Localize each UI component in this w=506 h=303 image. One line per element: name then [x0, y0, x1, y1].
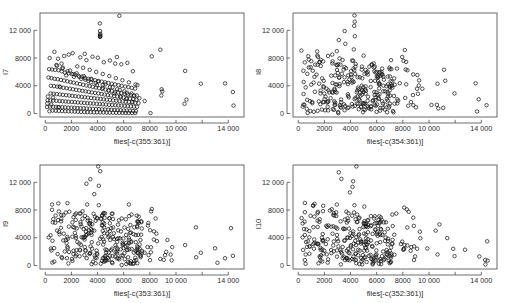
plot-frame — [293, 13, 497, 117]
x-axis: 0200040006000800010 00014 000flies[-c(35… — [296, 120, 492, 146]
data-point — [406, 104, 410, 108]
data-point — [140, 227, 144, 231]
data-point — [46, 95, 50, 99]
tick-label: 0 — [27, 261, 31, 270]
data-point — [118, 14, 122, 18]
tick-label: 8000 — [395, 124, 411, 133]
data-point — [194, 226, 198, 230]
tick-label: 6000 — [116, 276, 132, 285]
data-point — [353, 72, 357, 76]
data-point — [324, 242, 328, 246]
data-point — [317, 262, 321, 266]
data-point — [395, 67, 399, 71]
data-point — [231, 254, 235, 258]
data-point — [358, 227, 362, 231]
data-point — [302, 69, 306, 73]
data-point — [111, 217, 115, 221]
data-point — [353, 104, 357, 108]
data-point — [127, 81, 131, 85]
data-point — [97, 203, 101, 207]
tick-label: 10 000 — [165, 124, 187, 133]
data-point — [65, 256, 69, 260]
data-point — [152, 230, 156, 234]
data-point — [71, 221, 75, 225]
data-point — [312, 238, 316, 242]
data-point — [63, 250, 67, 254]
data-point — [53, 50, 57, 54]
data-point — [391, 213, 395, 217]
tick-label: 4000 — [343, 124, 359, 133]
data-point — [120, 84, 124, 88]
tick-label: 2000 — [316, 124, 332, 133]
data-point — [160, 94, 164, 98]
tick-label: 10 000 — [418, 276, 440, 285]
data-point — [363, 205, 367, 209]
data-point — [301, 248, 305, 252]
data-point — [348, 191, 352, 195]
data-point — [150, 55, 154, 59]
tick-label: 2000 — [63, 124, 79, 133]
data-point — [83, 253, 87, 257]
data-point — [149, 246, 153, 250]
data-point — [315, 50, 319, 54]
tick-label: 14 000 — [217, 276, 239, 285]
data-point — [155, 239, 159, 243]
data-point — [303, 233, 307, 237]
data-point — [351, 185, 355, 189]
data-point — [185, 98, 189, 102]
data-point — [377, 87, 381, 91]
data-point — [337, 171, 341, 175]
data-point — [62, 54, 66, 58]
tick-label: 8000 — [142, 276, 158, 285]
data-point — [216, 261, 220, 265]
data-point — [312, 110, 316, 114]
data-point — [313, 63, 317, 67]
data-point — [89, 177, 93, 181]
data-point — [400, 55, 404, 59]
data-point — [333, 74, 337, 78]
data-point — [442, 106, 446, 110]
data-point — [223, 257, 227, 261]
data-point — [365, 260, 369, 264]
data-point — [326, 54, 330, 58]
data-point — [88, 68, 92, 72]
data-point — [199, 251, 203, 255]
data-point — [127, 85, 131, 89]
data-point — [51, 239, 55, 243]
data-point — [391, 238, 395, 242]
data-point — [369, 85, 373, 89]
axis-title: flies[-c(354:361)] — [367, 137, 424, 146]
data-point — [353, 203, 357, 207]
tick-label: 8000 — [15, 54, 31, 63]
data-point — [199, 82, 203, 86]
data-point — [362, 54, 366, 58]
axis-title: flies[-c(352:361)] — [367, 289, 424, 298]
data-point — [78, 255, 82, 259]
data-point — [120, 263, 124, 267]
data-point — [313, 90, 317, 94]
scatterplot-matrix-figure: 0200040006000800010 00014 000flies[-c(35… — [0, 0, 506, 303]
data-point — [116, 223, 120, 227]
data-point — [330, 74, 334, 78]
data-point — [369, 214, 373, 218]
data-point — [352, 48, 356, 52]
data-point — [96, 242, 100, 246]
data-point — [81, 66, 85, 70]
data-point — [430, 103, 434, 107]
data-point — [338, 57, 342, 61]
data-point — [71, 225, 75, 229]
data-point — [50, 203, 54, 207]
data-point — [62, 213, 66, 217]
data-point — [100, 80, 104, 84]
tick-label: 6000 — [369, 276, 385, 285]
data-point — [223, 82, 227, 86]
data-point — [114, 76, 118, 80]
scatter-points — [47, 165, 235, 267]
tick-label: 12 000 — [9, 178, 31, 187]
data-point — [133, 87, 137, 91]
scatter-points — [300, 165, 489, 267]
data-point — [353, 14, 357, 18]
data-point — [334, 211, 338, 215]
data-point — [409, 249, 413, 253]
data-point — [344, 42, 348, 46]
